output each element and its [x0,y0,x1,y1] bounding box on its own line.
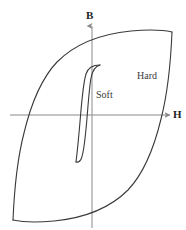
soft-loop-upper-branch [76,65,100,162]
hysteresis-diagram [0,0,186,230]
hard-curve-label: Hard [137,71,157,81]
b-axis-label: B [86,10,93,21]
h-axis-label: H [173,109,182,120]
soft-curve-label: Soft [96,90,113,100]
soft-loop-lower-branch [76,65,100,162]
hysteresis-figure: B H Soft Hard [0,0,186,230]
